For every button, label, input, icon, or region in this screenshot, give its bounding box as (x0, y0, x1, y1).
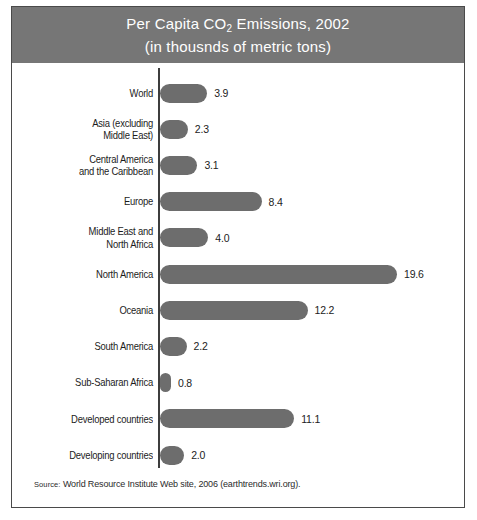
bar-row: Oceania12.2 (12, 292, 464, 328)
chart-title-subscript: 2 (226, 23, 232, 34)
chart-title-prefix: Per Capita CO (126, 15, 226, 32)
bar-value-label: 0.8 (178, 365, 192, 401)
category-label: Sub-Saharan Africa (32, 376, 154, 389)
bar-value-label: 12.2 (315, 292, 335, 328)
bar (160, 337, 187, 356)
bar (160, 228, 208, 247)
bar-row: Europe8.4 (12, 184, 464, 220)
source-label: Source: (34, 480, 61, 489)
bar-value-label: 3.9 (214, 75, 228, 111)
bar (160, 409, 294, 428)
bar (160, 301, 308, 320)
bar (160, 156, 197, 175)
category-label: South America (32, 340, 154, 353)
bar-value-label: 4.0 (215, 220, 229, 256)
bar-value-label: 8.4 (269, 184, 283, 220)
category-label: Developed countries (32, 413, 154, 426)
bar-value-label: 19.6 (404, 256, 424, 292)
chart-plot-area: World3.9Asia (excludingMiddle East)2.3Ce… (12, 63, 464, 467)
bar-value-label: 2.2 (194, 328, 208, 364)
category-label: Developing countries (32, 449, 154, 462)
category-label: Oceania (32, 304, 154, 317)
bar (160, 192, 262, 211)
chart-title-suffix: Emissions, 2002 (232, 15, 349, 32)
bar (160, 265, 397, 284)
category-label: Asia (excludingMiddle East) (32, 117, 154, 142)
bar-row: North America19.6 (12, 256, 464, 292)
bar-value-label: 2.3 (195, 111, 209, 147)
bar-row: Developed countries11.1 (12, 401, 464, 437)
source-body: World Resource Institute Web site, 2006 … (61, 479, 301, 489)
category-label: World (32, 87, 154, 100)
bar (160, 373, 171, 392)
chart-figure: Per Capita CO2 Emissions, 2002 (in thous… (11, 6, 465, 508)
category-label: Central Americaand the Caribbean (32, 153, 154, 178)
category-label: Middle East andNorth Africa (32, 225, 154, 250)
bar-row: Middle East andNorth Africa4.0 (12, 220, 464, 256)
chart-title-band: Per Capita CO2 Emissions, 2002 (in thous… (12, 7, 464, 63)
bar-row: World3.9 (12, 75, 464, 111)
bar (160, 84, 207, 103)
bar (160, 446, 184, 465)
bar (160, 120, 188, 139)
bar-row: South America2.2 (12, 328, 464, 364)
bar-row: Developing countries2.0 (12, 437, 464, 473)
chart-title-line-1: Per Capita CO2 Emissions, 2002 (126, 13, 349, 36)
category-label: North America (32, 268, 154, 281)
chart-subtitle-line-2: (in thousnds of metric tons) (145, 36, 332, 57)
bar-row: Central Americaand the Caribbean3.1 (12, 147, 464, 183)
bar-value-label: 3.1 (204, 147, 218, 183)
category-label: Europe (32, 195, 154, 208)
bar-value-label: 2.0 (191, 437, 205, 473)
bar-row: Asia (excludingMiddle East)2.3 (12, 111, 464, 147)
source-note: Source: World Resource Institute Web sit… (34, 479, 300, 489)
bar-value-label: 11.1 (301, 401, 320, 437)
bar-row: Sub-Saharan Africa0.8 (12, 365, 464, 401)
